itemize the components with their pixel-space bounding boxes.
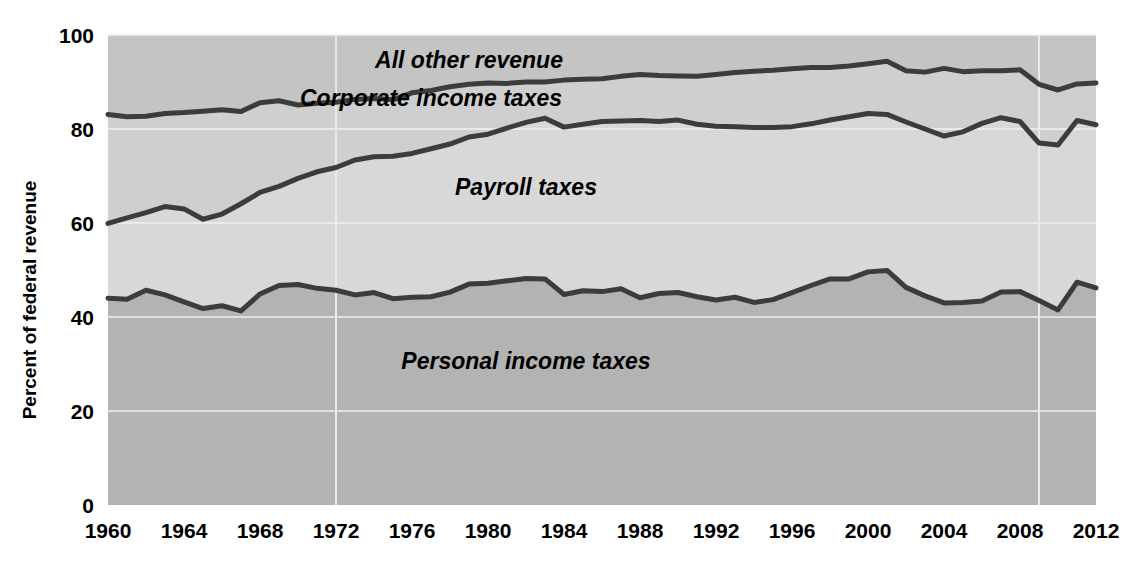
- x-tick-label-1996: 1996: [769, 519, 816, 542]
- y-axis-title: Percent of federal revenue: [19, 181, 40, 420]
- y-tick-label-100: 100: [59, 24, 94, 47]
- series-annotation-1: Corporate income taxes: [300, 85, 562, 111]
- x-tick-label-1984: 1984: [541, 519, 588, 542]
- x-tick-label-1976: 1976: [389, 519, 436, 542]
- x-tick-label-1964: 1964: [161, 519, 208, 542]
- x-tick-label-1972: 1972: [313, 519, 360, 542]
- x-axis-tick-labels: 1960196419681972197619801984198819921996…: [85, 519, 1120, 542]
- x-tick-label-1992: 1992: [693, 519, 740, 542]
- x-tick-label-1988: 1988: [617, 519, 664, 542]
- series-annotation-0: All other revenue: [374, 47, 563, 73]
- series-annotation-3: Personal income taxes: [401, 348, 650, 374]
- y-tick-label-80: 80: [71, 118, 94, 141]
- chart-canvas: 020406080100 196019641968197219761980198…: [0, 0, 1140, 564]
- stacked-area-chart: 020406080100 196019641968197219761980198…: [0, 0, 1140, 564]
- x-tick-label-2008: 2008: [997, 519, 1044, 542]
- band-personal-income-taxes: [108, 270, 1096, 505]
- x-tick-label-2000: 2000: [845, 519, 892, 542]
- x-tick-label-1968: 1968: [237, 519, 284, 542]
- y-tick-label-0: 0: [82, 494, 94, 517]
- series-annotation-2: Payroll taxes: [455, 174, 597, 200]
- y-tick-label-20: 20: [71, 400, 94, 423]
- x-tick-label-1980: 1980: [465, 519, 512, 542]
- x-tick-label-1960: 1960: [85, 519, 132, 542]
- x-tick-label-2012: 2012: [1073, 519, 1120, 542]
- x-tick-label-2004: 2004: [921, 519, 968, 542]
- y-tick-label-40: 40: [71, 306, 94, 329]
- y-axis-tick-labels: 020406080100: [59, 24, 94, 517]
- y-tick-label-60: 60: [71, 212, 94, 235]
